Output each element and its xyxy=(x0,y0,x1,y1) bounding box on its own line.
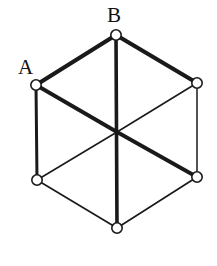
vertex-bottom xyxy=(112,223,122,233)
vertex-lower-right xyxy=(192,172,202,182)
edges-group xyxy=(36,35,197,228)
hexagon-graph-svg xyxy=(0,0,217,266)
figure-canvas: A B xyxy=(0,0,217,266)
diagonal-o-f xyxy=(37,132,117,180)
edge-e-f xyxy=(37,180,117,228)
diagonal-c-o xyxy=(117,83,197,132)
edge-a-b xyxy=(36,35,116,85)
vertex-upper-right xyxy=(192,78,202,88)
vertex-b xyxy=(111,30,121,40)
vertex-lower-left xyxy=(32,175,42,185)
diagonal-a-o xyxy=(36,85,117,132)
edge-b-c xyxy=(116,35,197,83)
diagonal-o-d xyxy=(117,132,197,177)
edge-d-e xyxy=(117,177,197,228)
vertex-a xyxy=(31,80,41,90)
vertex-label-b: B xyxy=(107,5,121,26)
edge-f-a xyxy=(36,85,37,180)
vertex-label-a: A xyxy=(18,57,33,78)
